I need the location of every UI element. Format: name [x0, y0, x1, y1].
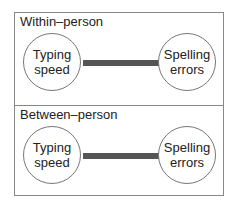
node-label: errors [164, 155, 210, 170]
typing-speed-node: Typingspeed [23, 126, 81, 184]
connection-edge [83, 60, 159, 66]
typing-speed-node: Typingspeed [23, 33, 81, 91]
node-label: speed [33, 62, 71, 77]
node-label: Spelling [164, 47, 210, 62]
panel-title: Within–person [20, 14, 103, 29]
node-label: Typing [33, 47, 71, 62]
node-label: speed [33, 155, 71, 170]
node-label: Typing [33, 140, 71, 155]
spelling-errors-node: Spellingerrors [158, 33, 216, 91]
spelling-errors-node: Spellingerrors [158, 126, 216, 184]
between-person-panel: Between–person Typingspeed Spellingerror… [14, 105, 224, 196]
node-label: Spelling [164, 140, 210, 155]
panel-title: Between–person [20, 107, 118, 122]
within-person-panel: Within–person Typingspeed Spellingerrors [14, 12, 224, 106]
node-label: errors [164, 62, 210, 77]
connection-edge [83, 153, 159, 159]
